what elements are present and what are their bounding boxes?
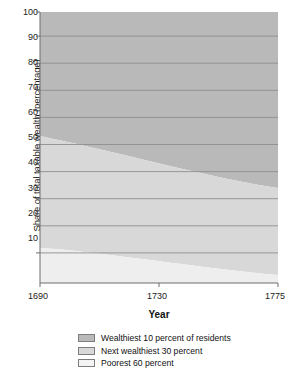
legend-item-wealthiest-10: Wealthiest 10 percent of residents bbox=[78, 332, 288, 345]
legend-swatch-icon-wealthiest-10 bbox=[78, 334, 95, 342]
legend-label-next-wealthiest-30: Next wealthiest 30 percent bbox=[101, 346, 202, 356]
legend-label-wealthiest-10: Wealthiest 10 percent of residents bbox=[101, 333, 231, 343]
y-axis-ticks bbox=[36, 12, 40, 253]
legend-swatch-icon-next-wealthiest-30 bbox=[78, 347, 95, 355]
x-tick-1730: 1730 bbox=[147, 291, 167, 301]
legend: Wealthiest 10 percent of residents Next … bbox=[78, 332, 288, 370]
legend-item-poorest-60: Poorest 60 percent bbox=[78, 357, 288, 370]
legend-swatch-icon-poorest-60 bbox=[78, 359, 95, 367]
x-axis-label: Year bbox=[40, 309, 278, 320]
x-tick-1775: 1775 bbox=[265, 291, 285, 301]
legend-item-next-wealthiest-30: Next wealthiest 30 percent bbox=[78, 345, 288, 358]
wealth-share-area-chart: Share of total taxable wealth (percentag… bbox=[0, 0, 301, 372]
x-axis-ticks bbox=[40, 283, 278, 287]
legend-label-poorest-60: Poorest 60 percent bbox=[101, 358, 174, 368]
x-tick-1690: 1690 bbox=[28, 291, 48, 301]
